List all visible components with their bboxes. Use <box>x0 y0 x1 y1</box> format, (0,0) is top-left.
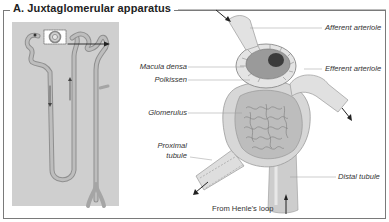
label-from-henles-loop: From Henle's loop <box>212 204 273 213</box>
label-macula-densa: Macula densa <box>131 62 187 71</box>
label-afferent-arteriole: Afferent arteriole <box>325 23 381 32</box>
label-distal-tubule: Distal tubule <box>338 172 380 181</box>
nephron-overview <box>27 30 110 206</box>
label-proximal-tubule-line1: Proximal <box>131 141 187 150</box>
label-proximal-tubule-line2: tubule <box>131 151 187 160</box>
label-glomerulus: Glomerulus <box>131 108 187 117</box>
jga-detail <box>193 10 352 214</box>
label-efferent-arteriole: Efferent arteriole <box>325 64 381 73</box>
diagram-illustration <box>0 0 389 222</box>
label-polkissen: Polkissen <box>131 75 187 84</box>
